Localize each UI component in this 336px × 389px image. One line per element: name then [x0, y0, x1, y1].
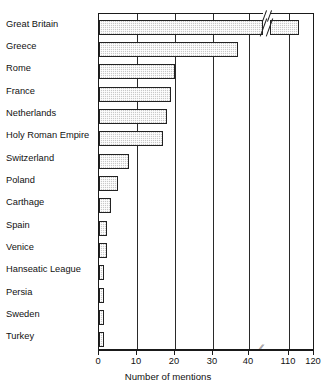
tick-30 [212, 350, 213, 355]
tick-label-40: 40 [243, 356, 253, 366]
category-label-france: France [6, 86, 35, 96]
category-label-carthage: Carthage [6, 197, 44, 207]
category-label-greece: Greece [6, 41, 37, 51]
bar-spain [99, 221, 107, 236]
bar-venice [99, 243, 107, 258]
tick-0 [98, 350, 99, 355]
tick-label-30: 30 [207, 356, 217, 366]
bar-sweden [99, 310, 104, 325]
category-label-great-britain: Great Britain [6, 19, 58, 29]
tick-label-110: 110 [281, 356, 296, 366]
x-axis-title: Number of mentions [0, 371, 336, 382]
bar-france [99, 87, 171, 102]
value-axis: 0 10 20 30 40 110 120 // Number of menti… [0, 350, 336, 389]
bar-turkey [99, 332, 104, 347]
bar-holy-roman-empire [99, 131, 163, 146]
bar-netherlands [99, 109, 167, 124]
bar-switzerland [99, 154, 129, 169]
bar-poland [99, 176, 118, 191]
category-label-netherlands: Netherlands [6, 108, 56, 118]
axis-line [98, 350, 314, 351]
category-label-spain: Spain [6, 220, 30, 230]
tick-110 [288, 350, 289, 355]
category-axis-labels: Great Britain Greece Rome France Netherl… [0, 0, 96, 389]
category-label-venice: Venice [6, 242, 34, 252]
category-label-rome: Rome [6, 63, 31, 73]
bar-great-britain-left [99, 20, 263, 35]
bar-rome [99, 64, 175, 79]
tick-10 [136, 350, 137, 355]
category-label-poland: Poland [6, 175, 35, 185]
bar-carthage [99, 198, 111, 213]
category-label-hanseatic-league: Hanseatic League [6, 264, 81, 274]
bar-greece [99, 42, 238, 57]
tick-20 [174, 350, 175, 355]
category-label-persia: Persia [6, 287, 32, 297]
category-label-sweden: Sweden [6, 309, 40, 319]
bars-layer [99, 14, 313, 349]
plot-area [98, 13, 314, 350]
bar-persia [99, 288, 104, 303]
category-label-holy-roman-empire: Holy Roman Empire [6, 130, 89, 140]
category-label-turkey: Turkey [6, 331, 34, 341]
tick-label-0: 0 [95, 356, 100, 366]
bar-hanseatic-league [99, 265, 104, 280]
tick-120 [313, 350, 314, 355]
tick-label-10: 10 [131, 356, 141, 366]
tick-40 [248, 350, 249, 355]
tick-label-20: 20 [169, 356, 179, 366]
bar-great-britain-right [270, 20, 299, 35]
tick-label-120: 120 [305, 356, 321, 366]
bar-chart: Great Britain Greece Rome France Netherl… [0, 0, 336, 389]
category-label-switzerland: Switzerland [6, 153, 54, 163]
